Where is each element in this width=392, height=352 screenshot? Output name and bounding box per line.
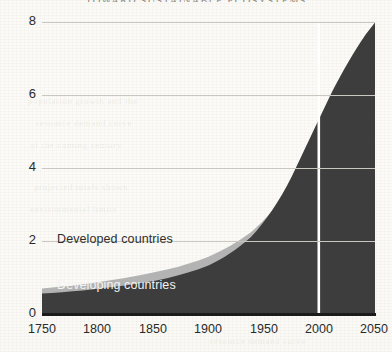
y-tick-6: 6 [6,86,36,101]
x-tick-2050: 2050 [360,322,388,336]
x-axis: 1750 1800 1850 1900 1950 2000 2050 [0,322,392,342]
x-tick-1800: 1800 [83,322,111,336]
y-tick-4: 4 [6,159,36,174]
population-area-chart: TOWARD SUSTAINABLE ECOSYSTEMS 8 6 4 2 0 … [0,0,392,352]
gridline-4 [42,168,375,169]
x-tick-2000: 2000 [305,322,333,336]
y-tick-8: 8 [6,13,36,28]
series-label-developing: Developing countries [57,278,176,292]
x-tick-1900: 1900 [194,322,222,336]
x-tick-1950: 1950 [250,322,278,336]
plot-area: Developed countries Developing countries [42,22,375,314]
y-tick-2: 2 [6,232,36,247]
page-title: TOWARD SUSTAINABLE ECOSYSTEMS [0,0,392,2]
y-tick-0: 0 [6,305,36,320]
x-axis-baseline [42,313,376,316]
x-tick-1750: 1750 [28,322,56,336]
series-label-developed: Developed countries [57,232,173,246]
gridline-6 [42,95,375,96]
x-tick-1850: 1850 [139,322,167,336]
gridline-8 [42,22,375,23]
y-axis: 8 6 4 2 0 [0,0,36,352]
